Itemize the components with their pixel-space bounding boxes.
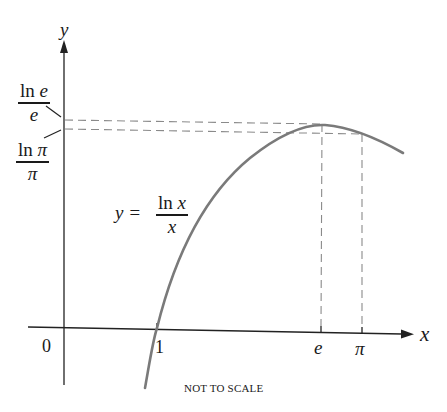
ln-pi-denominator: π [28,163,38,183]
y-marker-ln-pi-over-pi: ln π π [16,140,49,183]
x-axis [28,327,414,339]
x-tick-label-1: 1 [155,338,164,356]
equation-lhs: y = [115,203,141,222]
origin-label: 0 [42,337,51,355]
x-axis-arrow-icon [401,330,414,339]
ln-e-numerator: ln e [18,81,50,102]
x-tick-label-e: e [314,338,322,357]
y-axis [60,40,68,385]
y-axis-arrow-icon [60,40,68,53]
vertical-guide-e [321,124,322,326]
equation-numerator: ln x [156,193,188,214]
guide-lines [65,120,362,327]
ln-e-denominator: e [30,104,38,124]
equation-denominator: x [168,216,176,236]
leader-ln-pi-over-pi [44,130,61,138]
y-marker-ln-e-over-e: ln e e [18,81,50,124]
not-to-scale-note: NOT TO SCALE [184,382,263,394]
y-axis-label: y [60,20,68,39]
equation-fraction: ln x x [156,193,188,236]
ln-x-over-x-diagram [0,0,447,412]
x-tick-label-pi: π [355,339,365,358]
ln-pi-numerator: ln π [16,140,49,161]
horizontal-guide-ln-e-over-e [65,120,322,124]
horizontal-guide-ln-pi-over-pi [65,129,362,134]
x-axis-label: x [420,324,429,345]
